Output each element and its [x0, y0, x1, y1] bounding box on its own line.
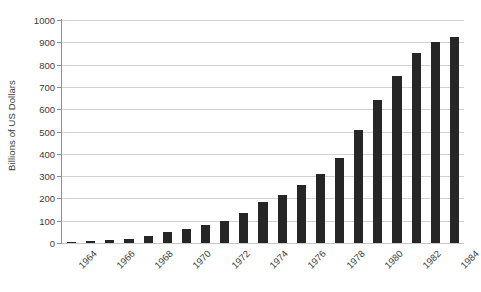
x-axis-tick-label: 1970 [191, 248, 214, 271]
bar [335, 158, 344, 243]
gridline [62, 20, 464, 21]
y-axis-tick-labels: 01002003004005006007008009001000 [0, 20, 55, 243]
y-axis-tick-label: 400 [3, 148, 55, 159]
y-axis-tick-mark [57, 221, 61, 222]
gridline [62, 109, 464, 110]
bar [220, 221, 229, 243]
bar [182, 229, 191, 243]
x-axis-tick-label: 1966 [114, 248, 137, 271]
bar [201, 225, 210, 243]
y-axis-tick-label: 1000 [3, 15, 55, 26]
y-axis-tick-mark [57, 198, 61, 199]
bar [354, 130, 363, 243]
y-axis-tick-mark [57, 243, 61, 244]
y-axis-tick-label: 200 [3, 193, 55, 204]
y-axis-tick-mark [57, 176, 61, 177]
y-axis-tick-mark [57, 132, 61, 133]
y-axis-tick-mark [57, 154, 61, 155]
x-axis-tick-label: 1980 [382, 248, 405, 271]
x-axis-tick-label: 1972 [229, 248, 252, 271]
bar [239, 213, 248, 243]
y-axis-tick-label: 900 [3, 37, 55, 48]
y-axis-tick-mark [57, 109, 61, 110]
y-axis-tick-mark [57, 42, 61, 43]
y-axis-tick-label: 600 [3, 104, 55, 115]
y-axis-tick-mark [57, 20, 61, 21]
gridline [62, 87, 464, 88]
gridline [62, 154, 464, 155]
gridline [62, 65, 464, 66]
gridline [62, 42, 464, 43]
bar [392, 76, 401, 243]
x-axis-tick-label: 1982 [420, 248, 443, 271]
y-axis-tick-label: 0 [3, 238, 55, 249]
bar [163, 232, 172, 243]
y-axis-tick-mark [57, 87, 61, 88]
gridline [62, 176, 464, 177]
x-axis-tick-label: 1978 [344, 248, 367, 271]
x-axis-tick-labels: 1964196619681970197219741976197819801982… [62, 244, 464, 292]
x-axis-tick-label: 1976 [305, 248, 328, 271]
gridline [62, 198, 464, 199]
x-axis-tick-label: 1984 [459, 248, 481, 271]
bar [258, 202, 267, 243]
y-axis-tick-label: 800 [3, 59, 55, 70]
x-axis-tick-label: 1968 [152, 248, 175, 271]
bar [450, 37, 459, 243]
y-axis-tick-label: 500 [3, 126, 55, 137]
bar [373, 100, 382, 243]
bar [144, 236, 153, 243]
y-axis-tick-mark [57, 65, 61, 66]
bar [278, 195, 287, 243]
bar [412, 53, 421, 243]
bar [431, 42, 440, 243]
bar [297, 185, 306, 243]
x-axis-tick-label: 1974 [267, 248, 290, 271]
bar [316, 174, 325, 243]
plot-area [62, 20, 464, 243]
y-axis-tick-label: 700 [3, 81, 55, 92]
y-axis-tick-label: 300 [3, 171, 55, 182]
x-axis-tick-label: 1964 [76, 248, 99, 271]
gridline [62, 132, 464, 133]
y-axis-tick-label: 100 [3, 215, 55, 226]
